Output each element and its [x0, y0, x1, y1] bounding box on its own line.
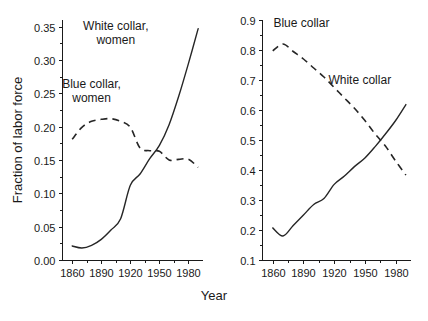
left-y-axis: 0.000.050.100.150.200.250.300.35: [34, 20, 62, 267]
right-panel: 0.10.20.30.40.50.60.70.80.9 186018901920…: [240, 15, 411, 280]
x-tick-label: 1920: [118, 267, 142, 279]
series-label-white-collar-women: White collar,women: [83, 19, 148, 47]
right-x-tick-labels: 18601890192019501980: [261, 267, 408, 279]
left-series-labels: White collar,womenBlue collar,women: [62, 19, 148, 105]
y-tick-label: 0.1: [240, 255, 255, 267]
y-axis-title: Fraction of labor force: [10, 77, 25, 203]
right-x-axis: 18601890192019501980: [261, 260, 411, 279]
y-tick-label: 0.7: [240, 75, 255, 87]
y-tick-label: 0.10: [34, 188, 55, 200]
series-curve-white-collar: [273, 105, 406, 236]
right-y-tick-labels: 0.10.20.30.40.50.60.70.80.9: [240, 15, 255, 267]
right-y-major-ticks: [259, 21, 263, 261]
y-tick-label: 0.2: [240, 225, 255, 237]
y-tick-label: 0.15: [34, 155, 55, 167]
y-tick-label: 0.5: [240, 135, 255, 147]
x-axis-title: Year: [201, 288, 228, 303]
y-tick-label: 0.00: [34, 255, 55, 267]
y-tick-label: 0.4: [240, 165, 255, 177]
series-curve-blue-collar-women: [72, 119, 198, 168]
y-tick-label: 0.25: [34, 88, 55, 100]
x-tick-label: 1980: [176, 267, 200, 279]
series-label-white-collar: White collar: [328, 73, 391, 87]
y-tick-label: 0.05: [34, 222, 55, 234]
series-label-blue-collar-women: Blue collar,women: [62, 77, 121, 105]
dual-line-chart: 0.000.050.100.150.200.250.300.35 1860189…: [0, 0, 428, 321]
y-tick-label: 0.9: [240, 15, 255, 27]
left-series-curves: [72, 29, 198, 248]
y-tick-label: 0.35: [34, 22, 55, 34]
left-panel: 0.000.050.100.150.200.250.300.35 1860189…: [34, 19, 203, 279]
x-tick-label: 1950: [353, 267, 377, 279]
x-tick-label: 1950: [147, 267, 171, 279]
left-x-tick-labels: 18601890192019501980: [60, 267, 200, 279]
x-tick-label: 1860: [60, 267, 84, 279]
right-series-labels: Blue collarWhite collar: [273, 16, 391, 87]
x-tick-label: 1890: [291, 267, 315, 279]
x-tick-label: 1980: [384, 267, 408, 279]
figure-container: 0.000.050.100.150.200.250.300.35 1860189…: [0, 0, 428, 321]
left-x-axis: 18601890192019501980: [60, 260, 203, 279]
y-tick-label: 0.8: [240, 45, 255, 57]
series-label-blue-collar: Blue collar: [273, 16, 329, 30]
x-tick-label: 1890: [89, 267, 113, 279]
x-tick-label: 1920: [322, 267, 346, 279]
y-tick-label: 0.6: [240, 105, 255, 117]
right-y-axis: 0.10.20.30.40.50.60.70.80.9: [240, 15, 262, 267]
y-tick-label: 0.20: [34, 122, 55, 134]
y-tick-label: 0.30: [34, 55, 55, 67]
left-y-tick-labels: 0.000.050.100.150.200.250.300.35: [34, 22, 55, 267]
series-curve-white-collar-women: [72, 29, 198, 248]
x-tick-label: 1860: [261, 267, 285, 279]
series-curve-blue-collar: [273, 44, 406, 175]
y-tick-label: 0.3: [240, 195, 255, 207]
